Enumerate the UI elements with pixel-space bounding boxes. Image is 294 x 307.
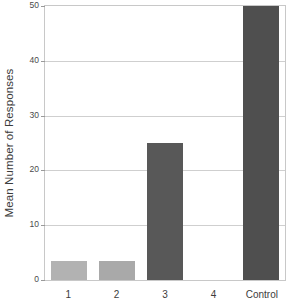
y-axis-tick-label: 40: [30, 55, 39, 65]
x-axis-tick-cell: 4: [189, 286, 237, 307]
bar-slot: [45, 6, 93, 280]
bar-chart-figure: Mean Number of Responses 01020304050 123…: [0, 0, 294, 307]
y-axis-tick-mark: [41, 280, 45, 281]
bar-series: [45, 6, 285, 280]
y-axis-title: Mean Number of Responses: [3, 68, 15, 217]
y-axis-tick-label: 50: [30, 0, 39, 10]
y-axis-tick-labels: 01020304050: [18, 0, 42, 307]
x-axis-tick-cell: 1: [44, 286, 92, 307]
x-axis-tick-label: 2: [114, 289, 120, 300]
bar-slot: [189, 6, 237, 280]
plot-area: [44, 5, 286, 281]
x-axis-tick-cell: Control: [238, 286, 286, 307]
x-axis-tick-labels: 1234Control: [44, 286, 286, 307]
bar-slot: [141, 6, 189, 280]
y-axis-title-container: Mean Number of Responses: [0, 0, 18, 285]
x-axis-tick-cell: 2: [92, 286, 140, 307]
bar-2[interactable]: [99, 261, 135, 280]
y-axis-tick-label: 30: [30, 110, 39, 120]
x-axis-tick-label: 1: [65, 289, 71, 300]
x-axis-tick-label: 4: [211, 289, 217, 300]
y-axis-tick-label: 0: [34, 274, 39, 284]
y-axis-tick-label: 20: [30, 164, 39, 174]
bar-control[interactable]: [243, 6, 279, 280]
x-axis-tick-cell: 3: [141, 286, 189, 307]
bar-slot: [237, 6, 285, 280]
x-axis-tick-label: Control: [246, 289, 278, 300]
bar-1[interactable]: [51, 261, 87, 280]
x-axis-tick-label: 3: [162, 289, 168, 300]
y-axis-tick-label: 10: [30, 219, 39, 229]
bar-3[interactable]: [147, 143, 183, 280]
bar-slot: [93, 6, 141, 280]
